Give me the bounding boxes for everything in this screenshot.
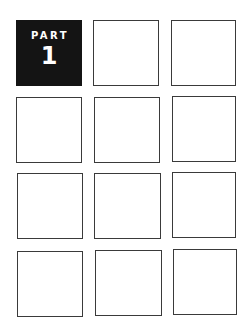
part-tile: PART 1: [16, 20, 82, 86]
empty-tile: [94, 97, 160, 163]
empty-tile: [93, 20, 159, 86]
part-label: PART: [31, 30, 69, 41]
empty-tile: [172, 96, 236, 162]
empty-tile: [172, 172, 236, 238]
empty-tile: [16, 97, 82, 163]
empty-tile: [95, 250, 162, 316]
part-number: 1: [41, 44, 58, 68]
empty-tile: [17, 251, 83, 317]
empty-tile: [173, 249, 237, 315]
empty-tile: [94, 173, 161, 239]
empty-tile: [171, 20, 236, 86]
empty-tile: [17, 173, 83, 239]
